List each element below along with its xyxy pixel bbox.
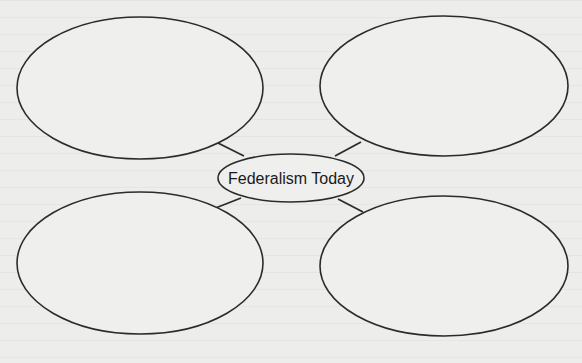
bubble-bottom-right[interactable]	[320, 196, 568, 336]
bubble-bottom-left[interactable]	[17, 192, 263, 334]
concept-web-diagram: Federalism Today	[0, 0, 582, 363]
worksheet-page: Federalism Today	[0, 0, 582, 363]
center-bubble-label: Federalism Today	[228, 170, 354, 187]
connector-bottom-right	[338, 199, 363, 212]
connector-top-right	[335, 142, 361, 156]
connector-top-left	[218, 143, 244, 156]
bubble-top-left[interactable]	[17, 17, 263, 159]
bubble-top-right[interactable]	[320, 16, 568, 156]
